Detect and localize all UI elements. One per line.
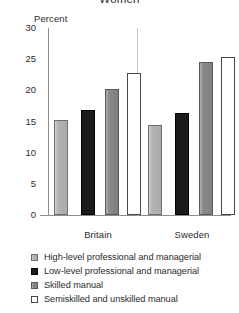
legend-item-high-level[interactable]: High-level professional and managerial (31, 250, 236, 264)
bar-britain-low-level[interactable] (81, 110, 95, 215)
y-tick-label: 0 (14, 210, 36, 220)
bar-slot (54, 28, 68, 215)
bar-sweden-high-level[interactable] (148, 125, 162, 215)
bar-slot (175, 28, 189, 215)
bar-slot (127, 28, 141, 215)
bar-slot (221, 28, 235, 215)
bar-sweden-skilled-manual[interactable] (199, 62, 213, 215)
y-axis-line (48, 28, 49, 216)
y-tick-label: 5 (14, 179, 36, 189)
y-tick-label: 20 (14, 85, 36, 95)
legend-item-skilled-manual[interactable]: Skilled manual (31, 278, 236, 292)
group-label-sweden: Sweden (152, 229, 232, 240)
plot-area: 30 25 20 15 10 5 0 Britain Sweden (0, 0, 239, 240)
legend-label: Skilled manual (44, 280, 103, 290)
legend-swatch-light-gray-icon (31, 254, 38, 261)
x-axis-line (40, 215, 231, 216)
y-tick-label: 25 (14, 54, 36, 64)
legend-swatch-black-icon (31, 268, 38, 275)
legend-label: High-level professional and managerial (44, 252, 201, 262)
legend-label: Low-level professional and managerial (44, 266, 199, 276)
legend-swatch-white-icon (31, 296, 38, 303)
bar-slot (148, 28, 162, 215)
legend: High-level professional and managerial L… (31, 250, 236, 306)
bar-slot (105, 28, 119, 215)
y-tick-label: 15 (14, 117, 36, 127)
y-tick-label: 10 (14, 148, 36, 158)
bar-britain-high-level[interactable] (54, 120, 68, 215)
bar-britain-semiskilled-manual[interactable] (127, 73, 141, 215)
bar-slot (81, 28, 95, 215)
legend-label: Semiskilled and unskilled manual (44, 294, 178, 304)
bar-sweden-low-level[interactable] (175, 113, 189, 215)
y-tick-label: 30 (14, 23, 36, 33)
legend-item-low-level[interactable]: Low-level professional and managerial (31, 264, 236, 278)
bar-britain-skilled-manual[interactable] (105, 89, 119, 215)
legend-item-semiskilled-manual[interactable]: Semiskilled and unskilled manual (31, 292, 236, 306)
legend-swatch-medium-gray-icon (31, 282, 38, 289)
bar-slot (199, 28, 213, 215)
bar-sweden-semiskilled-manual[interactable] (221, 57, 235, 215)
group-label-britain: Britain (58, 229, 138, 240)
